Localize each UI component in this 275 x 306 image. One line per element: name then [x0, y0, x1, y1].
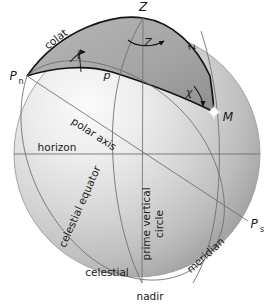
point-label-north-pole-sub: n [18, 77, 23, 86]
diagram-canvas: Z P n P s M Z t χ colat p z polar axis h… [0, 0, 275, 306]
circle-label-celestial: celestial [85, 266, 128, 278]
circle-label-prime-vertical: prime vertical [140, 187, 152, 260]
point-label-south-pole: P [250, 217, 258, 231]
circle-label-prime-vertical-circle: circle [153, 210, 165, 238]
angle-label-parallactic: χ [185, 86, 193, 99]
point-label-zenith: Z [138, 0, 148, 14]
point-label-star: M [223, 110, 234, 124]
angle-label-zenith: Z [143, 36, 152, 49]
point-label-north-pole: P [9, 69, 17, 83]
point-label-south-pole-sub: s [260, 225, 264, 234]
arc-label-polar-distance: p [103, 69, 111, 82]
circle-label-horizon: horizon [38, 141, 77, 153]
angle-label-hour: t [77, 49, 82, 62]
celestial-sphere-diagram: Z P n P s M Z t χ colat p z polar axis h… [0, 0, 275, 306]
circle-label-nadir: nadir [137, 290, 165, 302]
